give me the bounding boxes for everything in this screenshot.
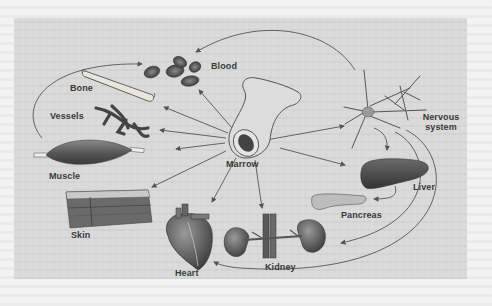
marrow-differentiation-diagram: [0, 0, 492, 306]
muscle-icon: [34, 140, 144, 164]
skin-layers-icon: [66, 190, 152, 228]
label-heart: Heart: [175, 268, 199, 278]
blood-vessels-icon: [96, 106, 148, 136]
red-blood-cells-icon: [143, 54, 203, 87]
label-nervous-system: Nervous system: [420, 112, 462, 132]
bone-cross-section-icon: [228, 78, 301, 162]
pancreas-icon: [312, 194, 366, 210]
label-vessels: Vessels: [50, 111, 84, 121]
label-pancreas: Pancreas: [341, 210, 382, 220]
heart-icon: [166, 204, 212, 270]
label-liver: Liver: [413, 182, 435, 192]
label-nervous-line2: system: [420, 122, 462, 132]
kidney-icon: [224, 214, 325, 258]
label-kidney: Kidney: [265, 262, 296, 272]
label-nervous-line1: Nervous: [420, 112, 462, 122]
label-blood: Blood: [211, 61, 237, 71]
label-skin: Skin: [71, 230, 90, 240]
label-bone: Bone: [70, 83, 93, 93]
label-muscle: Muscle: [49, 171, 80, 181]
label-marrow: Marrow: [226, 159, 259, 169]
